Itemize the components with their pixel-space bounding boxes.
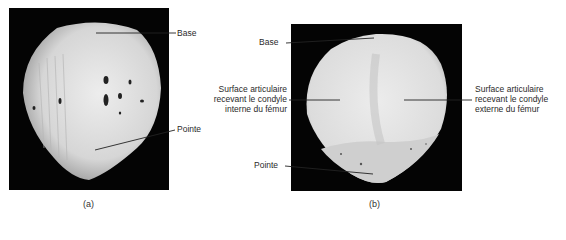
leader-b-pointe: [285, 166, 373, 174]
label-a-base: Base: [177, 28, 196, 38]
label-b-pointe: Pointe: [254, 160, 278, 170]
label-a-pointe: Pointe: [177, 124, 201, 134]
caption-a: (a): [83, 199, 94, 209]
label-b-lateral-surface: Surface articulaire recevant le condyle …: [475, 84, 548, 114]
label-b-medial-surface: Surface articulaire recevant le condyle …: [214, 84, 287, 114]
leader-b-base: [286, 38, 374, 43]
label-b-base: Base: [259, 37, 278, 47]
caption-b: (b): [369, 199, 380, 209]
leader-a-pointe: [95, 130, 175, 150]
